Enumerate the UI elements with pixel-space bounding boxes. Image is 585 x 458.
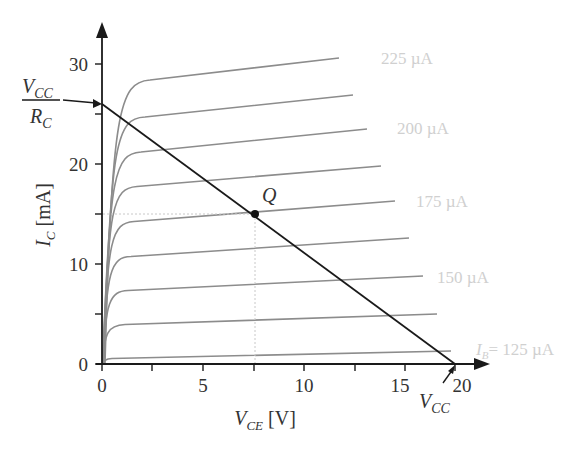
vcc-annotation: VCC	[419, 365, 455, 416]
y-axis-arrow-icon	[96, 22, 108, 38]
curve-label-200: 200 µA	[397, 119, 450, 138]
svg-text:VCC: VCC	[419, 390, 451, 416]
vcc-rc-arrow-icon	[93, 99, 102, 108]
curve-ib-4	[103, 238, 409, 364]
x-tick-label-10: 10	[295, 375, 314, 396]
x-tick-label-15: 15	[391, 375, 410, 396]
characteristic-curves	[103, 58, 451, 364]
y-tick-label-30: 30	[69, 54, 88, 75]
x-tick-label-0: 0	[97, 375, 107, 396]
y-tick-label-0: 0	[79, 354, 89, 375]
svg-text:RC: RC	[29, 105, 52, 131]
x-tick-label-20: 20	[453, 375, 472, 396]
load-line	[102, 104, 455, 364]
curve-ib-6	[103, 166, 381, 364]
x-ticks	[102, 364, 455, 371]
curve-label-175: 175 µA	[416, 192, 469, 211]
curve-label-150: 150 µA	[437, 268, 490, 287]
q-guide-lines	[103, 214, 255, 364]
x-axis-title: VCE [V]	[234, 407, 296, 433]
vcc-arrow-icon	[448, 365, 455, 374]
transistor-output-characteristics-chart: 0 10 20 30 0 5 10 15 20 VCE [V] IC [mA] …	[0, 0, 585, 458]
curve-label-125: IB= 125 µA	[475, 340, 555, 361]
q-point-label: Q	[262, 184, 277, 206]
x-tick-label-5: 5	[198, 375, 208, 396]
y-ticks	[95, 64, 102, 364]
y-tick-label-20: 20	[69, 154, 88, 175]
curve-ib-5	[103, 201, 395, 364]
vcc-over-rc-annotation: VCC RC	[22, 75, 102, 131]
y-axis-title: IC [mA]	[32, 183, 58, 248]
curve-ib-1	[103, 351, 451, 364]
y-tick-label-10: 10	[69, 254, 88, 275]
curve-ib-2	[103, 314, 437, 364]
svg-text:VCC: VCC	[22, 75, 54, 101]
curve-label-225: 225 µA	[381, 49, 434, 68]
curve-ib-7	[103, 129, 367, 364]
q-point-marker	[251, 210, 259, 218]
